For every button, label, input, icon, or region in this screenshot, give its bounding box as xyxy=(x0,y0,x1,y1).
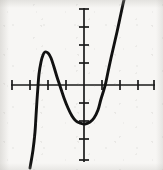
graph-figure xyxy=(0,0,163,170)
plot-canvas xyxy=(0,0,163,170)
cubic-function-curve xyxy=(30,0,124,168)
